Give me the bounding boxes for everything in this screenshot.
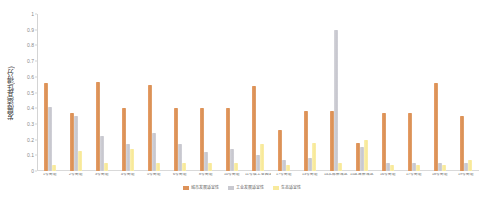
bar bbox=[208, 163, 212, 171]
x-tick-label: 13号街道 bbox=[297, 173, 323, 183]
bar-group bbox=[297, 14, 323, 171]
bar-group bbox=[401, 14, 427, 171]
legend-item[interactable]: 城市发展适宜性 bbox=[183, 186, 219, 190]
bar-group bbox=[427, 14, 453, 171]
x-tick-label: 14北部新城区 bbox=[323, 173, 349, 183]
x-tick-label: 19号街道 bbox=[453, 173, 479, 183]
y-tick-label: 0.1 bbox=[27, 153, 34, 158]
bar-group bbox=[271, 14, 297, 171]
legend-swatch bbox=[228, 186, 234, 189]
x-tick-label: 10号街道 bbox=[219, 173, 245, 183]
legend-label: 城市发展适宜性 bbox=[191, 186, 219, 190]
x-tick-label: 5号街道 bbox=[141, 173, 167, 183]
bar-group bbox=[115, 14, 141, 171]
x-tick-label: 16号街道 bbox=[375, 173, 401, 183]
bar bbox=[442, 165, 446, 171]
bar bbox=[364, 140, 368, 171]
y-tick-label: 0.2 bbox=[27, 137, 34, 142]
plot-area: 10.90.80.70.60.50.40.30.20.10 bbox=[37, 14, 479, 171]
legend-item[interactable]: 生态适宜性 bbox=[273, 186, 301, 190]
legend-swatch bbox=[273, 186, 279, 189]
bar bbox=[286, 165, 290, 171]
y-tick-label: 0.9 bbox=[27, 27, 34, 32]
x-tick-label: 1号街道 bbox=[37, 173, 63, 183]
bar-group bbox=[323, 14, 349, 171]
bar bbox=[334, 30, 338, 171]
bar bbox=[130, 149, 134, 171]
y-tick-label: 0.6 bbox=[27, 74, 34, 79]
chart-legend: 城市发展适宜性工业发展适宜性生态适宜性 bbox=[0, 186, 484, 190]
x-tick-label: 18号街道 bbox=[427, 173, 453, 183]
bar bbox=[104, 163, 108, 171]
y-tick-label: 0.4 bbox=[27, 106, 34, 111]
bar-group bbox=[453, 14, 479, 171]
x-tick-label: 4号街道 bbox=[115, 173, 141, 183]
bar bbox=[156, 163, 160, 171]
bar bbox=[260, 144, 264, 171]
y-tick-label: 0.8 bbox=[27, 43, 34, 48]
x-tick-label: 6号街道 bbox=[167, 173, 193, 183]
x-tick-label: 15区域新城区 bbox=[349, 173, 375, 183]
bar-group bbox=[37, 14, 63, 171]
legend-item[interactable]: 工业发展适宜性 bbox=[228, 186, 264, 190]
bar-group bbox=[167, 14, 193, 171]
bar bbox=[390, 165, 394, 171]
bar-group bbox=[349, 14, 375, 171]
bar-chart: 发展适宜性(得分) 10.90.80.70.60.50.40.30.20.10 … bbox=[0, 0, 484, 203]
x-axis-labels: 1号街道2号街道3号街道4号街道5号街道6号街道8号街道10号街道11号临工业园… bbox=[37, 173, 479, 183]
legend-label: 工业发展适宜性 bbox=[236, 186, 264, 190]
x-tick-label: 17号街道 bbox=[401, 173, 427, 183]
bar bbox=[434, 83, 438, 171]
legend-swatch bbox=[183, 186, 189, 189]
x-tick-label: 3号街道 bbox=[89, 173, 115, 183]
bar bbox=[338, 163, 342, 171]
x-tick-label: 1?号街道 bbox=[271, 173, 297, 183]
bar-group bbox=[141, 14, 167, 171]
x-tick-label: 2号街道 bbox=[63, 173, 89, 183]
y-tick-label: 0.5 bbox=[27, 90, 34, 95]
y-axis-title: 发展适宜性(得分) bbox=[4, 28, 18, 158]
bar bbox=[468, 160, 472, 171]
x-tick-label: 11号临工业园区 bbox=[245, 173, 271, 183]
y-tick-label: 0.7 bbox=[27, 59, 34, 64]
x-tick-label: 8号街道 bbox=[193, 173, 219, 183]
bar bbox=[52, 165, 56, 171]
bar bbox=[416, 165, 420, 171]
bar-group bbox=[89, 14, 115, 171]
bar bbox=[234, 163, 238, 171]
bar bbox=[312, 143, 316, 171]
bar-group bbox=[193, 14, 219, 171]
bar-group bbox=[63, 14, 89, 171]
legend-label: 生态适宜性 bbox=[281, 186, 301, 190]
bar bbox=[78, 151, 82, 171]
bar-group bbox=[219, 14, 245, 171]
bar-groups bbox=[37, 14, 479, 171]
y-tick-label: 0.3 bbox=[27, 121, 34, 126]
bar bbox=[48, 107, 52, 171]
bar bbox=[182, 163, 186, 171]
bar-group bbox=[375, 14, 401, 171]
bar-group bbox=[245, 14, 271, 171]
